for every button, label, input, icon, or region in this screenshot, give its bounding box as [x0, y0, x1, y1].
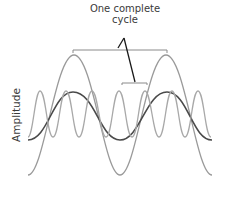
- small-cycle-bracket: [122, 83, 147, 85]
- large-cycle-bracket: [73, 50, 167, 53]
- annotation-pointer: [118, 38, 135, 82]
- wave-diagram: [0, 0, 227, 198]
- fast-wave: [28, 91, 211, 137]
- large-slow-wave: [28, 55, 212, 175]
